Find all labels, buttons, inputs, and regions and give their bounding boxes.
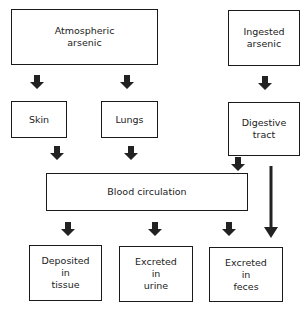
- arrow-down-icon: [50, 146, 64, 160]
- arrow-down-icon: [61, 222, 75, 236]
- node-blood-circulation: Blood circulation: [46, 173, 248, 211]
- node-excreted-in-urine: Excreted in urine: [119, 246, 193, 302]
- arrow-down-icon: [148, 222, 162, 236]
- node-deposited-in-tissue: Deposited in tissue: [29, 245, 102, 301]
- arrow-down-icon: [30, 75, 44, 89]
- arrow-down-icon: [258, 76, 272, 90]
- node-ingested-arsenic: Ingested arsenic: [228, 10, 300, 66]
- node-excreted-in-feces: Excreted in feces: [209, 247, 283, 302]
- arrow-down-icon: [124, 146, 138, 160]
- node-atmospheric-arsenic: Atmospheric arsenic: [11, 9, 158, 65]
- arrow-down-icon: [222, 222, 236, 236]
- long-arrow-down-icon: [264, 166, 278, 238]
- node-digestive-tract: Digestive tract: [228, 102, 300, 156]
- arrow-down-icon: [120, 75, 134, 89]
- node-lungs: Lungs: [101, 101, 158, 138]
- arrow-down-icon: [231, 157, 245, 171]
- node-skin: Skin: [11, 101, 67, 138]
